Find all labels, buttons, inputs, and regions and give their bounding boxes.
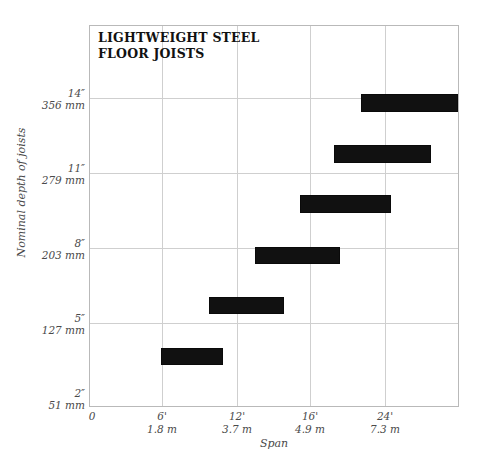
x-tick-meter-label: 7.3 m: [345, 423, 425, 436]
x-axis-tick-labels: 0 6' 1.8 m 12' 3.7 m 16' 4.9 m 24' 7.3 m: [0, 0, 480, 468]
x-tick-feet-label: 6': [122, 410, 202, 423]
x-tick-feet-label: 16': [270, 410, 350, 423]
x-tick-6ft: 6' 1.8 m: [122, 410, 202, 436]
x-tick-12ft: 12' 3.7 m: [197, 410, 277, 436]
y-axis-title: Nominal depth of joists: [15, 108, 28, 278]
x-tick-meter-label: 1.8 m: [122, 423, 202, 436]
x-tick-meter-label: 3.7 m: [197, 423, 277, 436]
x-tick-feet-label: 24': [345, 410, 425, 423]
x-tick-meter-label: 4.9 m: [270, 423, 350, 436]
chart-figure: LIGHTWEIGHT STEEL FLOOR JOISTS 14″ 356 m…: [0, 0, 480, 468]
x-tick-feet-label: 0: [52, 410, 132, 423]
x-tick-feet-label: 12': [197, 410, 277, 423]
x-axis-title: Span: [89, 437, 459, 450]
x-tick-16ft: 16' 4.9 m: [270, 410, 350, 436]
x-tick-0: 0: [52, 410, 132, 423]
x-tick-24ft: 24' 7.3 m: [345, 410, 425, 436]
